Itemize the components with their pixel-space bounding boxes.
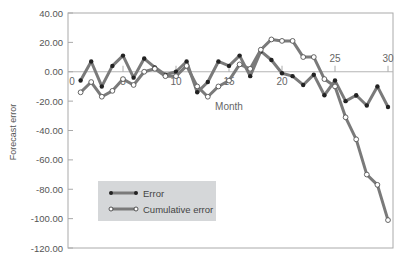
y-axis-title: Forecast error [8,104,18,161]
error-point [269,58,273,62]
error-point [312,72,316,76]
error-point [343,99,347,103]
y-tick-label: -100.00 [31,213,63,224]
error-point [354,93,358,97]
cumulative-error-point [322,77,327,82]
cumulative-error-point [237,62,242,67]
cumulative-error-point [258,47,263,52]
y-tick-label: 0.00 [45,66,64,77]
open-circle-icon [109,207,113,211]
cumulative-error-point [131,83,136,88]
error-point [248,74,252,78]
cumulative-error-point [227,78,232,83]
y-tick-label: -40.00 [36,125,63,136]
cumulative-error-point [280,39,285,44]
cumulative-error-point [290,39,295,44]
filled-circle-icon [134,191,138,195]
x-tick-label: 30 [382,53,394,64]
y-axis: 40.0020.000.00-20.00-40.00-60.00-80.00-1… [31,8,73,254]
cumulative-error-point [174,74,179,79]
y-tick-label: 20.00 [39,37,63,48]
error-point [131,75,135,79]
cumulative-error-point [269,37,274,42]
cumulative-error-point [195,84,200,89]
x-axis-title: Month [215,101,243,112]
error-point [78,78,82,82]
cumulative-error-point [205,94,210,99]
cumulative-error-point [333,84,338,89]
cumulative-error-point [142,69,147,74]
legend-label-error: Error [143,188,164,199]
y-tick-label: -60.00 [36,154,63,165]
error-point [301,83,305,87]
error-point [121,53,125,57]
cumulative-error-point [364,172,369,177]
x-tick-label: 20 [276,76,288,87]
error-point [195,90,199,94]
cumulative-error-point [343,115,348,120]
open-circle-icon [134,207,138,211]
cumulative-error-point [354,137,359,142]
cumulative-error-point [375,182,380,187]
error-point [237,53,241,57]
x-tick-label: 25 [329,53,341,64]
x-tick-label: 0 [69,76,75,87]
cumulative-error-point [301,55,306,60]
cumulative-error-point [248,66,253,71]
legend: Error Cumulative error [98,181,216,221]
error-point [227,64,231,68]
filled-circle-icon [109,191,113,195]
cumulative-error-point [216,84,221,89]
forecast-error-chart: 40.0020.000.00-20.00-40.00-60.00-80.00-1… [0,0,403,266]
error-point [290,74,294,78]
y-tick-label: -80.00 [36,184,63,195]
error-point [110,64,114,68]
cumulative-error-point [99,94,104,99]
error-point [206,80,210,84]
error-point [322,93,326,97]
y-tick-label: 40.00 [39,8,63,19]
y-tick-label: -20.00 [36,96,63,107]
error-point [216,59,220,63]
cumulative-error-point [184,63,189,68]
error-point [386,105,390,109]
cumulative-error-point [386,218,391,223]
error-point [365,103,369,107]
error-point [142,56,146,60]
y-tick-label: -120.00 [31,243,63,254]
legend-label-cumulative-error: Cumulative error [143,204,213,215]
error-point [333,78,337,82]
error-point [89,59,93,63]
error-point [280,71,284,75]
cumulative-error-point [152,66,157,71]
cumulative-error-point [78,90,83,95]
error-point [184,59,188,63]
cumulative-error-point [121,77,126,82]
error-point [100,84,104,88]
cumulative-error-point [311,55,316,60]
cumulative-error-point [163,74,168,79]
error-point [375,84,379,88]
cumulative-error-point [110,88,115,93]
cumulative-error-point [89,80,94,85]
